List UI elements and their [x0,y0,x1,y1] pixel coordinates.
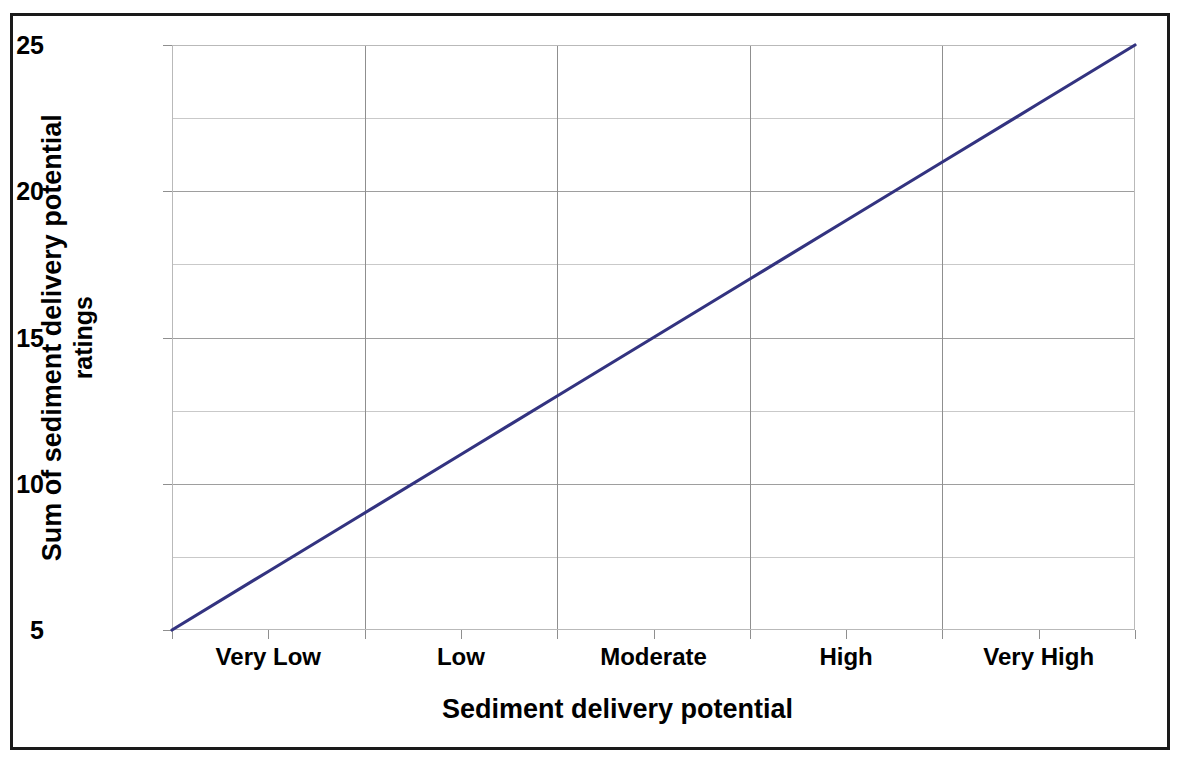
x-tick-mark-9 [1039,630,1040,639]
y-axis-tick-label-20: 20 [0,177,44,206]
x-axis-category-label-moderate: Moderate [600,643,707,671]
y-axis-tick-label-10: 10 [0,469,44,498]
y-axis-tick-label-25: 25 [0,31,44,60]
x-tick-mark-1 [268,630,269,639]
x-tick-mark-6 [750,630,751,639]
y-axis-tick-label-5: 5 [0,616,44,645]
y-tick-mark-25 [163,45,172,46]
y-tick-mark-10 [163,484,172,485]
x-tick-mark-4 [557,630,558,639]
x-tick-mark-8 [942,630,943,639]
x-axis-category-label-very-low: Very Low [216,643,321,671]
x-tick-mark-7 [846,630,847,639]
x-tick-mark-10 [1135,630,1136,639]
y-axis-tick-label-15: 15 [0,323,44,352]
plot-area [172,45,1135,630]
x-axis-title: Sediment delivery potential [0,694,1187,725]
x-tick-mark-2 [365,630,366,639]
chart-figure: Sum of sediment delivery potential ratin… [0,0,1187,772]
y-tick-mark-15 [163,338,172,339]
y-tick-mark-20 [163,191,172,192]
y-axis-title-line-2: ratings [69,114,99,561]
x-axis-category-label-very-high: Very High [983,643,1094,671]
series-line-sum-of-ratings [172,45,1135,630]
series-line-chart [172,45,1135,630]
x-axis-category-label-high: High [819,643,872,671]
x-tick-mark-5 [654,630,655,639]
x-tick-mark-3 [461,630,462,639]
x-axis-title-text: Sediment delivery potential [442,694,793,724]
x-axis-category-label-low: Low [437,643,485,671]
